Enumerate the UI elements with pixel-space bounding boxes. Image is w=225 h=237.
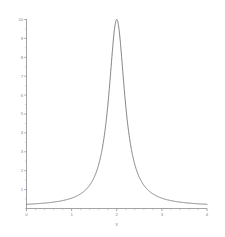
- y-tick-label: 8: [2, 55, 23, 60]
- chart-container: 12345678910 01234 x: [0, 0, 225, 237]
- y-tick-label: 5: [2, 111, 23, 116]
- y-tick-label: 6: [2, 93, 23, 98]
- y-tick-label: 9: [2, 36, 23, 41]
- y-tick-label: 10: [2, 17, 23, 22]
- y-tick-label: 7: [2, 74, 23, 79]
- y-tick-label: 2: [2, 168, 23, 173]
- y-tick-label: 4: [2, 130, 23, 135]
- plot-area: [0, 0, 225, 237]
- x-tick-label: 2: [111, 212, 123, 217]
- x-axis-title: x: [107, 222, 127, 227]
- y-tick-label: 1: [2, 187, 23, 192]
- x-tick-label: 3: [156, 212, 168, 217]
- data-series-curve: [27, 20, 208, 205]
- y-tick-label: 3: [2, 149, 23, 154]
- x-tick-label: 0: [21, 212, 33, 217]
- x-tick-label: 4: [201, 212, 213, 217]
- x-tick-label: 1: [66, 212, 78, 217]
